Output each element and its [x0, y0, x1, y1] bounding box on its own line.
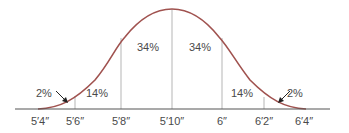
label-band-right-34: 34%	[189, 41, 211, 53]
label-left-tail: 2%	[36, 87, 52, 99]
tick-6-0: 6″	[217, 115, 227, 127]
tick-5-10: 5′10″	[160, 115, 184, 127]
arrow-left-tail-icon	[56, 91, 68, 103]
tick-6-4: 6′4″	[295, 115, 313, 127]
normal-distribution-chart: 2% 14% 34% 34% 14% 2% 5′4″ 5′6″ 5′8″ 5′1…	[0, 0, 349, 133]
label-band-right-14: 14%	[231, 87, 253, 99]
label-right-tail: 2%	[287, 87, 303, 99]
label-band-left-34: 34%	[137, 41, 159, 53]
tick-5-6: 5′6″	[66, 115, 84, 127]
label-band-left-14: 14%	[86, 87, 108, 99]
tick-6-2: 6′2″	[255, 115, 273, 127]
tick-5-4: 5′4″	[31, 115, 49, 127]
tick-5-8: 5′8″	[112, 115, 130, 127]
